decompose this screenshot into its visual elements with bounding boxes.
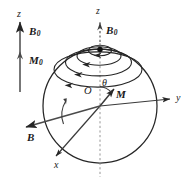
precession-diagram: z B0 M0 z B0 O θ M y x B [0,0,195,186]
top-b0-label: B0 [106,25,117,37]
left-m0-label: M0 [29,55,43,67]
rotation-arc [62,101,66,125]
left-b0-symbol: B [29,25,36,37]
spiral-ellipse-4 [54,52,142,87]
m-vector [100,89,114,106]
left-m0-symbol: M [29,54,39,66]
left-m0-subscript: 0 [39,58,43,67]
spiral-ellipse-3 [66,49,132,76]
spiral-arrowhead-4 [65,83,73,89]
x-axis-label: x [54,160,58,170]
m-vector-label: M [116,89,126,100]
pole-dot [97,47,102,52]
top-z-arrowhead [97,23,103,31]
left-b0-subscript: 0 [37,29,41,38]
y-axis [100,99,170,106]
precession-spiral [54,45,142,87]
top-b0-symbol: B [106,24,113,36]
x-axis [56,106,100,156]
theta-label: θ [102,78,107,88]
left-z-axis-label: z [17,9,21,19]
left-b0-label: B0 [29,26,40,38]
y-axis-label: y [176,93,180,103]
rotation-curved-arrow [62,98,67,124]
rotation-arrowhead [63,98,67,104]
origin-label: O [84,86,92,97]
top-b0-subscript: 0 [114,28,118,37]
left-axis-group [17,22,23,92]
b-vector-label: B [27,132,34,143]
top-z-axis-group [97,22,103,42]
top-z-axis-label: z [96,7,100,17]
